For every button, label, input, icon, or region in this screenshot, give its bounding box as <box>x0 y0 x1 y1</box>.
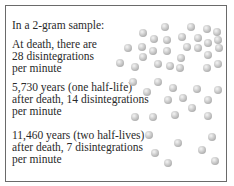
atom-dot-icon <box>178 33 186 41</box>
atom-dot-icon <box>145 131 153 139</box>
atom-dot-icon <box>214 60 222 68</box>
atom-dot-icon <box>214 86 222 94</box>
atom-dot-icon <box>154 60 162 68</box>
atom-dot-icon <box>214 36 222 44</box>
atom-dot-icon <box>183 43 191 51</box>
atom-dot-icon <box>204 51 212 59</box>
stage1-line3: per minute <box>12 105 62 117</box>
atom-dot-icon <box>149 113 157 121</box>
atom-dot-icon <box>194 34 202 42</box>
atom-dot-icon <box>164 159 172 167</box>
atom-dot-icon <box>179 94 187 102</box>
atom-dot-icon <box>131 63 139 71</box>
atom-dot-icon <box>204 112 212 120</box>
atom-dot-icon <box>143 88 151 96</box>
atom-dot-icon <box>171 111 179 119</box>
atom-dot-icon <box>154 78 162 86</box>
stage1-line2: after death, 14 disintegrations <box>12 93 149 105</box>
atom-dot-icon <box>138 43 146 51</box>
atom-dot-icon <box>161 23 169 31</box>
atom-dot-icon <box>163 36 171 44</box>
stage1-line1: 5,730 years (one half-life) <box>12 81 132 93</box>
atom-dot-icon <box>124 44 132 52</box>
atom-dot-icon <box>204 96 212 104</box>
atom-dot-icon <box>204 39 212 47</box>
atom-dot-icon <box>215 44 223 52</box>
atom-dot-icon <box>174 139 182 147</box>
atom-dot-icon <box>208 133 216 141</box>
stage0-line3: per minute <box>12 62 62 74</box>
atom-dot-icon <box>166 62 174 70</box>
atom-dot-icon <box>151 149 159 157</box>
atom-dot-icon <box>139 29 147 37</box>
atom-dot-icon <box>116 59 124 67</box>
atom-dot-icon <box>149 47 157 55</box>
atom-dot-icon <box>203 64 211 72</box>
stage2-line2: after death, 7 disintegrations <box>12 141 143 153</box>
atom-dot-icon <box>188 104 196 112</box>
stage0-line2: 28 disintegrations <box>12 50 94 62</box>
atom-dot-icon <box>213 28 221 36</box>
atom-dot-icon <box>150 35 158 43</box>
atom-dot-icon <box>193 85 201 93</box>
stage2-line1: 11,460 years (two half-lives) <box>12 129 144 141</box>
atom-dot-icon <box>203 25 211 33</box>
atom-dot-icon <box>187 23 195 31</box>
atom-dot-icon <box>139 53 147 61</box>
atom-dot-icon <box>176 64 184 72</box>
atom-dot-icon <box>169 84 177 92</box>
atom-dot-icon <box>131 113 139 121</box>
atom-dot-icon <box>194 44 202 52</box>
atom-dot-icon <box>129 78 137 86</box>
atom-dot-icon <box>163 47 171 55</box>
stage2-line3: per minute <box>12 153 62 165</box>
atom-dot-icon <box>211 157 219 165</box>
atom-dot-icon <box>177 54 185 62</box>
heading: In a 2-gram sample: <box>12 19 104 31</box>
stage0-line1: At death, there are <box>12 38 97 50</box>
atom-dot-icon <box>164 96 172 104</box>
atom-dot-icon <box>198 146 206 154</box>
